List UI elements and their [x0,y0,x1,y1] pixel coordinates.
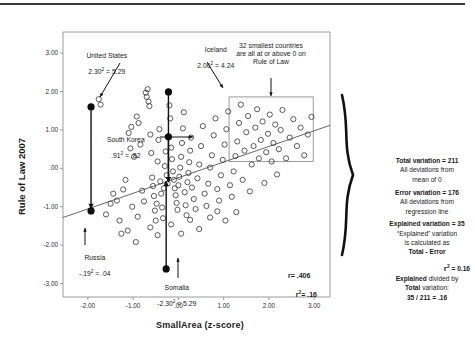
annotation-russia-name: Russia [84,254,105,261]
data-point [245,114,250,119]
data-point [298,125,303,130]
data-point [213,116,218,121]
annotation-united-states: United States 2.302 = 5.29 [63,44,143,84]
data-point [135,214,140,219]
data-point [242,148,247,153]
data-point [229,194,234,199]
data-point [179,231,184,236]
r2-desc-3: 35 / 211 = .16 [368,293,475,302]
annotation-russia: Russia -.192 = .04 [58,246,124,286]
annotation-south-korea-value: .91 [111,153,120,160]
arrow-south-korea [160,135,193,138]
data-point [280,107,285,112]
highlighted-point-russia [87,207,94,214]
data-point [206,181,211,186]
data-point [103,212,108,217]
data-point [204,203,209,208]
data-point [227,183,232,188]
total-variation-value: = 211 [440,157,458,164]
data-point [235,139,240,144]
data-point [262,180,267,185]
data-point [211,133,216,138]
data-point [294,143,299,148]
highlighted-point-somalia [163,265,170,272]
data-point [148,225,153,230]
error-variation-label: Error variation [395,189,440,196]
data-point [182,190,187,195]
data-point [220,157,225,162]
data-point [274,172,279,177]
annotation-smallest-countries: 32 smallest countries are all at or abov… [213,42,329,65]
data-point [178,165,183,170]
data-point [108,201,113,206]
data-point [273,122,278,127]
data-point [185,180,190,185]
data-point [197,226,202,231]
data-point [158,179,163,184]
total-variation-desc: All deviations from mean of 0 [368,165,475,184]
annotation-russia-eq: = .04 [93,271,110,278]
data-point [197,162,202,167]
r2-desc-2: Total variation: [368,283,475,292]
data-point [160,205,165,210]
data-point [170,169,175,174]
r-value-label: r= .406 [288,272,310,280]
data-point [264,150,269,155]
data-point [215,209,220,214]
y-tick-label: -2.00 [30,241,58,248]
annotation-russia-value: -.19 [79,271,91,278]
data-point [174,200,179,205]
annotation-iceland-value: 2.06 [197,63,210,70]
data-point [260,119,265,124]
data-point [267,112,272,117]
highlighted-point-united-states [87,103,94,110]
data-point [160,216,165,221]
data-point [130,204,135,209]
y-tick-label: 1.00 [30,126,58,133]
data-point [256,156,261,161]
data-point [153,218,158,223]
data-point [188,217,193,222]
data-point [162,163,167,168]
data-point [180,126,185,131]
annotation-somalia-name: Somalia [165,284,190,291]
explained-variation-label: Explained variation = 35 [368,219,475,228]
y-tick-label: 2.00 [30,88,58,95]
y-tick-label: 3.00 [30,49,58,56]
data-point [133,239,138,244]
data-point [175,207,180,212]
data-point [255,107,260,112]
annotation-south-korea: South Korea .912 = .82 [84,128,160,168]
data-point [96,97,101,102]
data-point [186,170,191,175]
data-point [209,153,214,158]
data-point [234,210,239,215]
y-axis-title: Rule of Law 2007 [16,138,27,215]
data-point [98,102,103,107]
data-point [179,154,184,159]
r2-desc-2-bold: Total [405,284,420,291]
x-tick-label: -2.00 [77,302,99,309]
data-point [181,110,186,115]
x-tick-label: 3.00 [303,302,325,309]
data-point [152,208,157,213]
y-tick-label: .00 [30,164,58,171]
data-point [121,187,126,192]
explained-variation-desc-1: “Explained” variation [368,229,475,238]
annotation-somalia: Somalia -2.302 = 5.29 [133,276,213,316]
y-tick-label: -1.00 [30,203,58,210]
data-point [198,143,203,148]
data-point [159,191,164,196]
data-point [207,215,212,220]
r2-desc-1: Explained divided by [368,274,475,283]
data-point [251,143,256,148]
data-point [222,142,227,147]
data-point [247,189,252,194]
y-tick-label: -3.00 [30,280,58,287]
data-point [173,193,178,198]
x-tick-label: 2.00 [258,302,280,309]
data-point [195,176,200,181]
data-point [276,147,281,152]
data-point [291,117,296,122]
